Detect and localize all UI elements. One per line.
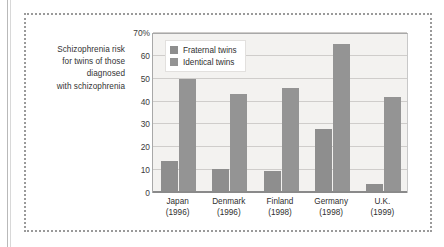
y-axis-labels: 010203040506070%: [106, 33, 150, 193]
category-name: Finland: [267, 197, 294, 206]
bar-fraternal: [264, 171, 281, 193]
plot-area: Fraternal twins Identical twins: [152, 33, 408, 193]
x-axis-labels: Japan(1996)Denmark(1996)Finland(1998)Ger…: [152, 196, 408, 226]
category-name: Denmark: [212, 197, 245, 206]
category-year: (1999): [352, 207, 412, 218]
page-edge-rule-secondary: [10, 0, 11, 247]
gridline: [153, 32, 407, 33]
legend-label-identical: Identical twins: [183, 58, 234, 67]
bar-identical: [282, 88, 299, 193]
category-name: Japan: [166, 197, 188, 206]
category-name: U.K.: [374, 197, 390, 206]
legend-label-fraternal: Fraternal twins: [183, 46, 237, 55]
y-axis-tick-label: 0: [110, 188, 150, 198]
bar-fraternal: [161, 161, 178, 193]
bar-identical: [179, 79, 196, 193]
y-axis-tick-label: 30: [110, 119, 150, 129]
bar-fraternal: [212, 169, 229, 193]
bar-identical: [230, 94, 247, 193]
category-name: Germany: [314, 197, 348, 206]
page-edge-rule: [7, 0, 8, 247]
chart-legend: Fraternal twins Identical twins: [165, 40, 246, 72]
y-axis-tick-label: 40: [110, 97, 150, 107]
bar-identical: [333, 44, 350, 193]
y-axis-tick-label: 10: [110, 165, 150, 175]
plot-wrapper: Fraternal twins Identical twins: [152, 33, 408, 193]
y-axis-tick-label: 20: [110, 142, 150, 152]
y-axis-tick-label: 60: [110, 51, 150, 61]
legend-swatch-identical: [170, 58, 178, 66]
bar-identical: [384, 97, 401, 193]
y-axis-tick-label: 70%: [110, 28, 150, 38]
bar-fraternal: [315, 129, 332, 193]
x-axis-category-label: U.K.(1999): [352, 196, 412, 218]
y-axis-tick-label: 50: [110, 74, 150, 84]
legend-item-identical: Identical twins: [170, 56, 237, 68]
figure-panel: Schizophrenia risk for twins of those di…: [0, 0, 444, 247]
legend-item-fraternal: Fraternal twins: [170, 44, 237, 56]
x-axis-line: [153, 191, 407, 193]
legend-swatch-fraternal: [170, 46, 178, 54]
